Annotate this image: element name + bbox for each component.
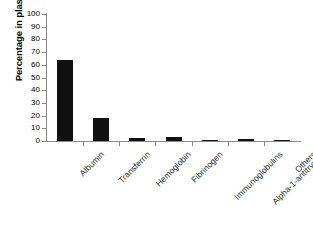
y-tick-label: 30	[18, 99, 40, 107]
y-tick-mark	[42, 39, 46, 40]
bar	[166, 137, 182, 141]
bar	[274, 140, 290, 142]
x-axis-line	[46, 141, 301, 142]
x-tick-mark	[192, 142, 193, 146]
y-tick-label: 100	[18, 10, 40, 18]
x-tick-mark	[155, 142, 156, 146]
y-tick-mark	[42, 27, 46, 28]
y-tick-mark	[42, 14, 46, 15]
bar	[93, 118, 109, 141]
y-tick-label: 0	[18, 137, 40, 145]
bar	[57, 60, 73, 141]
x-tick-label: Fibrinogen	[189, 150, 224, 185]
y-tick-label: 60	[18, 61, 40, 69]
x-tick-mark	[228, 142, 229, 146]
y-tick-mark	[42, 128, 46, 129]
bar-chart: Percentage in plasma 0102030405060708090…	[0, 0, 313, 229]
y-tick-mark	[42, 65, 46, 66]
x-tick-label: Transferrin	[117, 150, 152, 185]
y-tick-mark	[42, 52, 46, 53]
bar	[202, 140, 218, 142]
y-tick-label: 70	[18, 48, 40, 56]
y-tick-label: 20	[18, 112, 40, 120]
x-tick-label: Hemoglobin	[155, 150, 193, 188]
plot-area	[47, 14, 300, 141]
y-tick-label: 90	[18, 23, 40, 31]
x-tick-mark	[119, 142, 120, 146]
y-tick-mark	[42, 103, 46, 104]
y-tick-mark	[42, 90, 46, 91]
y-tick-label: 50	[18, 74, 40, 82]
bar	[238, 139, 254, 141]
x-tick-mark	[83, 142, 84, 146]
y-tick-label: 10	[18, 124, 40, 132]
x-tick-label: Albumin	[78, 150, 106, 178]
y-tick-mark	[42, 141, 46, 142]
y-tick-label: 40	[18, 86, 40, 94]
y-tick-mark	[42, 78, 46, 79]
bar	[129, 138, 145, 141]
y-tick-label: 80	[18, 35, 40, 43]
y-tick-mark	[42, 116, 46, 117]
x-tick-mark	[264, 142, 265, 146]
